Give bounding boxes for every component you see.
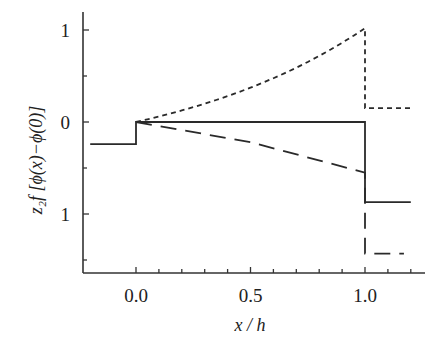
axes (83, 12, 425, 273)
series (90, 28, 411, 253)
y-axis-label: z₂f [ϕ(x)−ϕ(0)] (26, 106, 47, 216)
series-long-dashed (136, 122, 404, 254)
chart: 0.00.51.0101 x / h z₂f [ϕ(x)−ϕ(0)] (0, 0, 437, 343)
x-tick-label: 0.0 (124, 285, 148, 306)
series-short-dashed (136, 28, 411, 122)
ticks (83, 30, 411, 273)
x-tick-label: 1.0 (353, 285, 377, 306)
x-tick-label: 0.5 (239, 285, 263, 306)
y-tick-label: 1 (61, 20, 71, 41)
y-tick-label: 1 (61, 204, 71, 225)
x-axis-label: x / h (234, 315, 266, 335)
tick-labels: 0.00.51.0101 (61, 20, 377, 306)
series-solid (90, 122, 411, 202)
y-tick-label: 0 (61, 112, 71, 133)
